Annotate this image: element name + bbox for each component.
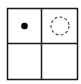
- grid-svg: [0, 0, 81, 84]
- cell-top-left: [21, 23, 28, 30]
- grid-diagram: [0, 0, 81, 84]
- filled-dot-icon: [21, 23, 28, 30]
- dashed-circle-icon: [51, 17, 69, 35]
- cell-top-right: [51, 17, 69, 35]
